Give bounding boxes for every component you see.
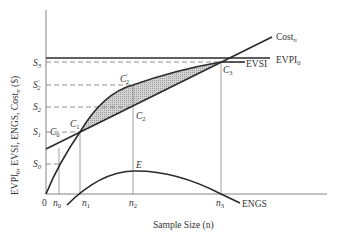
point-c3: C3 <box>223 65 233 76</box>
tick-origin: 0 <box>42 198 47 208</box>
dashed-guides <box>46 62 245 164</box>
cost-label: Costn <box>276 32 297 43</box>
tick-s0: S0 <box>33 159 42 170</box>
engs-curve <box>67 171 240 205</box>
x-axis-label: Sample Size (n) <box>153 220 214 231</box>
engs-label: ENGS <box>242 199 267 209</box>
point-c2-prime: C′2 <box>120 72 129 85</box>
tick-n2: n2 <box>129 198 137 209</box>
y-tick-labels: S3 S′2 S2 S1 S0 <box>33 58 42 170</box>
tick-s3: S3 <box>33 58 42 69</box>
point-labels: C0 C1 C′2 C2 C3 E <box>50 65 233 170</box>
tick-s2: S2 <box>33 102 42 113</box>
tick-n0: n0 <box>53 198 61 209</box>
point-e: E <box>135 160 142 170</box>
evpi-label: EVPI0 <box>276 55 300 66</box>
point-c0: C0 <box>50 127 60 138</box>
curve-labels: Costn EVPI0 EVSI ENGS <box>242 32 300 209</box>
tick-n1: n1 <box>82 198 90 209</box>
tick-s1: S1 <box>33 127 41 138</box>
tick-n3: n3 <box>216 198 224 209</box>
evsi-label: EVSI <box>246 59 267 69</box>
tick-s2-prime: S′2 <box>33 78 41 91</box>
point-c1: C1 <box>70 119 80 130</box>
y-axis-label: EVPI0, EVSI, ENGS, Costn ($) <box>10 76 22 195</box>
point-c2: C2 <box>136 111 146 122</box>
optimal-sample-size-diagram: EVPI0, EVSI, ENGS, Costn ($) S3 S′2 S2 S… <box>0 0 339 240</box>
